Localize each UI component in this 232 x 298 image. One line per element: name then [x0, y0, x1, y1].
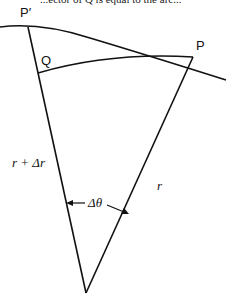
angle-arrow-right: [107, 205, 124, 212]
label-delta-theta: Δθ: [87, 195, 103, 210]
inner-radius-line: [86, 57, 193, 293]
label-q: Q: [41, 53, 51, 68]
inner-arc: [38, 56, 193, 73]
caption-fragment: ...ector of Q is equal to the arc...: [40, 0, 182, 5]
label-r-plus-delta-r: r + Δr: [12, 155, 46, 170]
label-r: r: [157, 178, 163, 193]
label-p: P: [196, 38, 205, 53]
label-p-prime: P′: [20, 5, 32, 20]
polar-geometry-diagram: ...ector of Q is equal to the arc... P′ …: [0, 0, 232, 298]
